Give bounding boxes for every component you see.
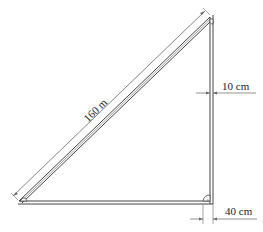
hypotenuse-dimension xyxy=(11,8,210,200)
bottom-left-corner-gusset xyxy=(20,198,27,201)
base-member xyxy=(18,201,213,204)
vertical-member xyxy=(210,15,213,204)
triangle-diagram: 160 m 10 cm 40 cm xyxy=(0,0,263,232)
base-offset-label: 40 cm xyxy=(225,205,253,217)
bottom-right-corner-gusset xyxy=(203,195,210,201)
top-corner-gusset xyxy=(210,19,213,24)
vertical-width-label: 10 cm xyxy=(222,80,250,92)
hypotenuse-member xyxy=(19,17,211,203)
